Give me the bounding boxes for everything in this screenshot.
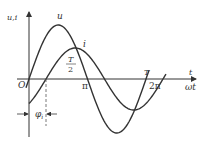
half-period-denominator: 2 bbox=[68, 65, 73, 74]
two-pi-label: 2π bbox=[149, 81, 161, 91]
period-label: T bbox=[144, 68, 150, 77]
u-curve-label: u bbox=[57, 11, 63, 21]
y-axis-label: u,i bbox=[7, 13, 18, 22]
phase-subscript: i bbox=[41, 113, 43, 120]
phase-label: φi bbox=[35, 109, 43, 120]
x-axis-label-t: t bbox=[189, 68, 193, 77]
half-period-numerator: T bbox=[68, 55, 74, 64]
phase-diagram: u,i O u i T 2 π T 2π t ωt φi bbox=[0, 0, 206, 148]
pi-label: π bbox=[82, 81, 88, 91]
origin-label: O bbox=[18, 80, 26, 90]
i-curve-label: i bbox=[83, 39, 86, 49]
x-axis-label-omega-t: ωt bbox=[185, 82, 196, 92]
